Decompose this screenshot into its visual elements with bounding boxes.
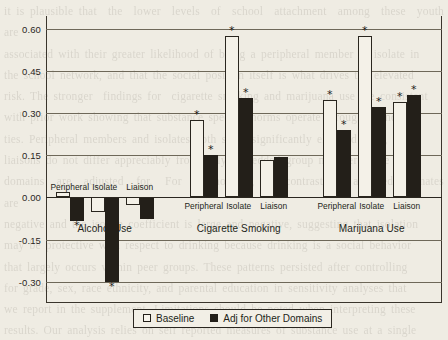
bar-marijuana-use-liaison-baseline xyxy=(393,102,407,198)
bar-marijuana-use-peripheral-baseline xyxy=(323,100,337,197)
group-label-marijuana-use: Marijuana Use xyxy=(339,223,405,234)
gridline xyxy=(46,29,442,30)
legend-item-adjusted: Adj for Other Domains xyxy=(210,313,322,324)
category-label-peripheral: Peripheral xyxy=(184,201,223,211)
bar-alcohol-use-liaison-adjusted xyxy=(140,197,154,218)
zero-baseline-axis xyxy=(46,197,442,198)
gridline xyxy=(46,71,442,72)
significance-marker-icon: * xyxy=(397,93,403,100)
category-label-isolate: Isolate xyxy=(92,182,117,192)
y-axis-tick-label: 0.45 xyxy=(22,65,41,76)
y-axis-tick-label: -0.30 xyxy=(19,276,41,287)
category-label-isolate: Isolate xyxy=(359,201,384,211)
bar-marijuana-use-peripheral-adjusted xyxy=(337,130,351,198)
significance-marker-icon: * xyxy=(341,121,347,128)
bar-marijuana-use-isolate-baseline xyxy=(358,36,372,198)
bar-cigarette-smoking-isolate-baseline xyxy=(225,36,239,198)
bar-alcohol-use-isolate-baseline xyxy=(91,197,105,211)
legend-label-adjusted: Adj for Other Domains xyxy=(223,313,322,324)
category-label-peripheral: Peripheral xyxy=(317,201,356,211)
category-label-isolate: Isolate xyxy=(226,201,251,211)
legend-swatch-filled-square-icon xyxy=(210,314,218,322)
bar-cigarette-smoking-liaison-baseline xyxy=(260,160,274,198)
bar-cigarette-smoking-liaison-adjusted xyxy=(274,157,288,198)
gridline xyxy=(46,282,442,283)
significance-marker-icon: * xyxy=(362,27,368,34)
bar-cigarette-smoking-peripheral-adjusted xyxy=(204,155,218,197)
bar-alcohol-use-peripheral-adjusted xyxy=(70,197,84,221)
y-axis-tick-label: 0.00 xyxy=(22,192,41,203)
bar-alcohol-use-isolate-adjusted xyxy=(105,197,119,281)
y-axis-tick-label: 0.30 xyxy=(22,108,41,119)
legend-label-baseline: Baseline xyxy=(156,313,194,324)
category-label-liaison: Liaison xyxy=(260,201,287,211)
plot-area: 0.600.450.300.150.00-0.15-0.30 *********… xyxy=(46,16,442,303)
bar-cigarette-smoking-isolate-adjusted xyxy=(239,98,253,198)
significance-marker-icon: * xyxy=(229,27,235,34)
y-axis-tick-label: 0.60 xyxy=(22,23,41,34)
bar-marijuana-use-liaison-adjusted xyxy=(407,95,421,198)
bar-alcohol-use-liaison-baseline xyxy=(126,197,140,204)
group-label-cigarette-smoking: Cigarette Smoking xyxy=(197,223,281,234)
significance-marker-icon: * xyxy=(411,86,417,93)
significance-marker-icon: * xyxy=(109,283,115,290)
bar-cigarette-smoking-peripheral-baseline xyxy=(190,120,204,197)
significance-marker-icon: * xyxy=(327,91,333,98)
legend-item-baseline: Baseline xyxy=(143,313,194,324)
group-label-alcohol-use: Alcohol Use xyxy=(78,223,132,234)
bar-marijuana-use-isolate-adjusted xyxy=(372,107,386,197)
y-axis-tick-label: -0.15 xyxy=(19,234,41,245)
significance-marker-icon: * xyxy=(194,111,200,118)
y-axis-tick-label: 0.15 xyxy=(22,150,41,161)
significance-marker-icon: * xyxy=(376,98,382,105)
legend-swatch-open-square-icon xyxy=(143,314,151,322)
grouped-bar-chart: 0.600.450.300.150.00-0.15-0.30 *********… xyxy=(0,0,448,340)
significance-marker-icon: * xyxy=(208,146,214,153)
category-label-peripheral: Peripheral xyxy=(50,182,89,192)
significance-marker-icon: * xyxy=(243,89,249,96)
category-label-liaison: Liaison xyxy=(393,201,420,211)
chart-legend: Baseline Adj for Other Domains xyxy=(133,309,332,328)
category-label-liaison: Liaison xyxy=(126,182,153,192)
